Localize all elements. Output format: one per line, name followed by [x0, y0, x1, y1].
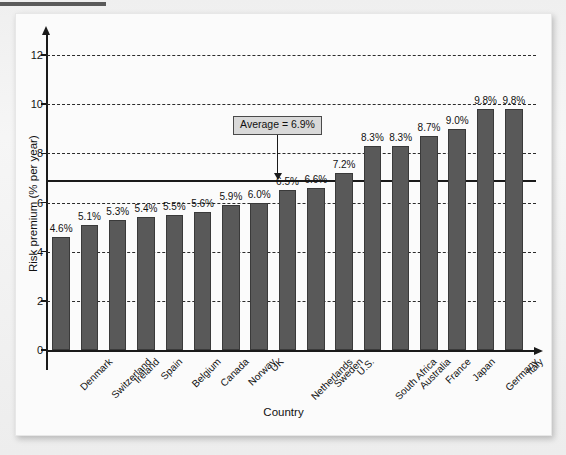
- bar[interactable]: [448, 129, 466, 350]
- x-axis-category-label: Spain: [159, 356, 185, 382]
- bar[interactable]: [166, 215, 184, 350]
- bar-chart-plot-area: 024681012 Average = 6.9% 4.6%5.1%5.3%5.4…: [16, 14, 551, 435]
- bar[interactable]: [364, 146, 382, 350]
- x-axis-line: [46, 350, 538, 352]
- bar-value-label: 5.9%: [220, 191, 243, 202]
- bar-value-label: 5.3%: [106, 206, 129, 217]
- bar-value-label: 5.6%: [191, 198, 214, 209]
- bar[interactable]: [194, 212, 212, 350]
- bar-value-label: 9.8%: [502, 95, 525, 106]
- x-axis-category-label: Japan: [470, 356, 497, 383]
- gridline: [47, 55, 536, 56]
- y-axis-title: Risk premium (% per year): [27, 135, 39, 272]
- top-rule-decoration: [0, 2, 106, 6]
- bar-value-label: 5.1%: [78, 211, 101, 222]
- bar-value-label: 5.5%: [163, 201, 186, 212]
- y-axis-arrow-icon: [42, 26, 50, 35]
- bar-value-label: 9.0%: [446, 115, 469, 126]
- bar[interactable]: [392, 146, 410, 350]
- bar[interactable]: [81, 225, 99, 350]
- x-axis-arrow-icon: [534, 347, 543, 355]
- bar-value-label: 8.7%: [418, 122, 441, 133]
- average-callout-label: Average = 6.9%: [233, 116, 322, 135]
- bar[interactable]: [505, 109, 523, 350]
- bar-value-label: 4.6%: [50, 223, 73, 234]
- x-axis-title: Country: [16, 406, 551, 418]
- bar-value-label: 8.3%: [361, 132, 384, 143]
- bar[interactable]: [222, 205, 240, 350]
- bar-value-label: 5.4%: [135, 203, 158, 214]
- x-axis-category-label: Denmark: [78, 356, 114, 392]
- bar-value-label: 7.2%: [333, 159, 356, 170]
- y-axis-tick-label: 10: [31, 98, 43, 110]
- average-callout-arrow-stem: [277, 135, 278, 174]
- bar[interactable]: [420, 136, 438, 350]
- bar-value-label: 9.8%: [474, 95, 497, 106]
- y-axis-tick-label: 2: [37, 295, 43, 307]
- x-axis-category-label: Belgium: [190, 356, 223, 389]
- bar[interactable]: [250, 203, 268, 351]
- bar-value-label: 6.6%: [304, 174, 327, 185]
- bar-value-label: 6.5%: [276, 176, 299, 187]
- y-axis-tick-label: 12: [31, 49, 43, 61]
- y-axis-tick-label: 0: [37, 344, 43, 356]
- figure-card: 024681012 Average = 6.9% 4.6%5.1%5.3%5.4…: [15, 13, 552, 436]
- bar-value-label: 6.0%: [248, 189, 271, 200]
- bar[interactable]: [477, 109, 495, 350]
- bar[interactable]: [137, 217, 155, 350]
- bar-value-label: 8.3%: [389, 132, 412, 143]
- bar[interactable]: [307, 188, 325, 350]
- bar[interactable]: [52, 237, 70, 350]
- bar[interactable]: [279, 190, 297, 350]
- bar[interactable]: [109, 220, 127, 350]
- gridline: [47, 104, 536, 105]
- bar[interactable]: [335, 173, 353, 350]
- x-axis-category-label: Canada: [218, 356, 251, 389]
